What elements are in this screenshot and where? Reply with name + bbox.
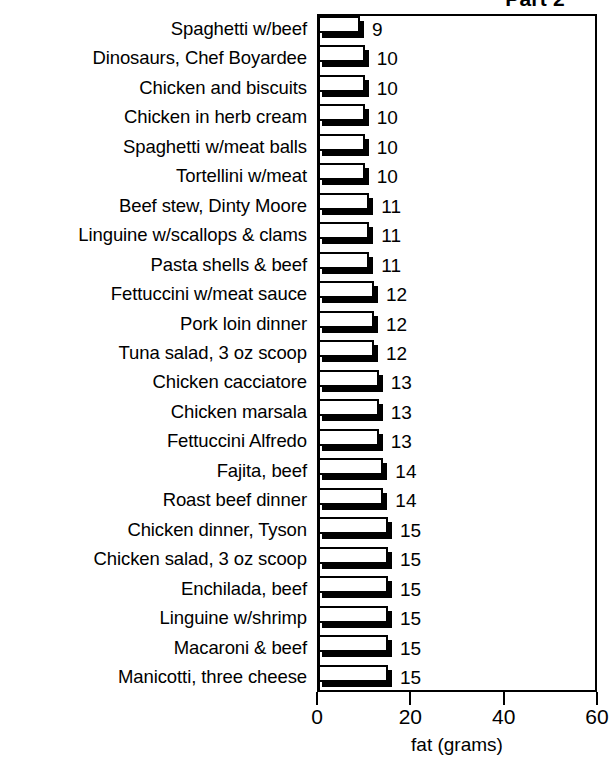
bar-row: Pork loin dinner12 [0, 309, 615, 338]
bar-rows: Spaghetti w/beef9Dinosaurs, Chef Boyarde… [0, 14, 615, 692]
bar-face [318, 163, 365, 180]
bar [318, 399, 379, 425]
bar [318, 134, 365, 160]
bar-value-label: 13 [391, 402, 412, 421]
category-label: Beef stew, Dinty Moore [119, 196, 307, 215]
x-axis-tick [409, 692, 411, 705]
bar [318, 252, 369, 278]
category-label: Pasta shells & beef [151, 255, 307, 274]
bar-row: Spaghetti w/meat balls10 [0, 132, 615, 161]
bar-value-label: 10 [377, 78, 398, 97]
bar-row: Chicken salad, 3 oz scoop15 [0, 545, 615, 574]
bar-face [318, 547, 388, 564]
bar [318, 193, 369, 219]
x-axis-tick-label: 60 [585, 706, 608, 727]
bar [318, 458, 383, 484]
bar-row: Chicken marsala13 [0, 397, 615, 426]
bar-face [318, 134, 365, 151]
bar [318, 16, 360, 42]
bar-row: Roast beef dinner14 [0, 486, 615, 515]
bar-row: Chicken and biscuits10 [0, 73, 615, 102]
bar-value-label: 11 [381, 196, 401, 215]
bar [318, 576, 388, 602]
bar-value-label: 11 [381, 226, 401, 245]
bar-value-label: 12 [386, 285, 407, 304]
bar-row: Tortellini w/meat10 [0, 161, 615, 190]
bar [318, 222, 369, 248]
bar-face [318, 104, 365, 121]
category-label: Fajita, beef [217, 462, 307, 481]
x-axis-tick [316, 692, 318, 705]
bar-row: Chicken dinner, Tyson15 [0, 515, 615, 544]
category-label: Chicken dinner, Tyson [127, 521, 307, 540]
bar-face [318, 576, 388, 593]
bar [318, 606, 388, 632]
bar-row: Tuna salad, 3 oz scoop12 [0, 338, 615, 367]
bar [318, 75, 365, 101]
bar-face [318, 340, 374, 357]
category-label: Tuna salad, 3 oz scoop [119, 344, 307, 363]
bar-value-label: 10 [377, 108, 398, 127]
category-label: Roast beef dinner [163, 491, 307, 510]
bar-face [318, 222, 369, 239]
bar-value-label: 15 [400, 520, 421, 539]
x-axis-title: fat (grams) [317, 734, 597, 756]
category-label: Linguine w/shrimp [160, 609, 307, 628]
bar-row: Fettuccini w/meat sauce12 [0, 279, 615, 308]
bar-face [318, 16, 360, 33]
bar-value-label: 14 [395, 461, 416, 480]
bar-face [318, 606, 388, 623]
category-label: Chicken and biscuits [139, 78, 307, 97]
category-label: Manicotti, three cheese [118, 668, 307, 687]
bar [318, 517, 388, 543]
category-label: Chicken cacciatore [153, 373, 308, 392]
category-label: Linguine w/scallops & clams [78, 226, 307, 245]
x-axis-tick [503, 692, 505, 705]
x-axis: fat (grams) 0204060 [0, 692, 615, 761]
bar-value-label: 12 [386, 343, 407, 362]
bar-chart: Part 2 Spaghetti w/beef9Dinosaurs, Chef … [0, 0, 615, 761]
bar [318, 429, 379, 455]
category-label: Spaghetti w/beef [171, 19, 307, 38]
category-label: Fettuccini w/meat sauce [111, 285, 307, 304]
bar-face [318, 458, 383, 475]
bar-row: Spaghetti w/beef9 [0, 14, 615, 43]
bar-row: Macaroni & beef15 [0, 633, 615, 662]
bar-face [318, 193, 369, 210]
bar-face [318, 370, 379, 387]
bar-value-label: 15 [400, 609, 421, 628]
bar-face [318, 45, 365, 62]
bar-row: Chicken in herb cream10 [0, 102, 615, 131]
bar-value-label: 10 [377, 137, 398, 156]
x-axis-tick-label: 20 [399, 706, 422, 727]
category-label: Chicken in herb cream [124, 108, 307, 127]
bar [318, 45, 365, 71]
x-axis-tick [596, 692, 598, 705]
bar-face [318, 488, 383, 505]
bar-value-label: 13 [391, 432, 412, 451]
bar-face [318, 281, 374, 298]
chart-title: Part 2 [470, 0, 600, 11]
category-label: Fettuccini Alfredo [167, 432, 307, 451]
bar-value-label: 12 [386, 314, 407, 333]
bar [318, 311, 374, 337]
category-label: Macaroni & beef [174, 639, 307, 658]
bar [318, 281, 374, 307]
bar-value-label: 10 [377, 49, 398, 68]
bar-value-label: 15 [400, 579, 421, 598]
bar-row: Fettuccini Alfredo13 [0, 427, 615, 456]
bar [318, 665, 388, 691]
bar [318, 340, 374, 366]
bar-face [318, 252, 369, 269]
category-label: Tortellini w/meat [176, 167, 307, 186]
bar-row: Linguine w/shrimp15 [0, 604, 615, 633]
bar-face [318, 665, 388, 682]
bar [318, 488, 383, 514]
category-label: Chicken salad, 3 oz scoop [94, 550, 307, 569]
bar-face [318, 429, 379, 446]
bar [318, 104, 365, 130]
bar-row: Manicotti, three cheese15 [0, 663, 615, 692]
bar-face [318, 517, 388, 534]
category-label: Dinosaurs, Chef Boyardee [92, 49, 307, 68]
bar-value-label: 13 [391, 373, 412, 392]
